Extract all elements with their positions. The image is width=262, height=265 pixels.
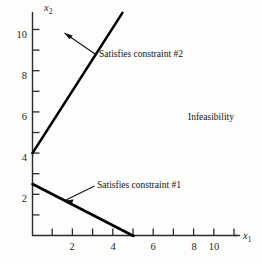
y-tick-label-6: 6 xyxy=(10,111,27,122)
annotation-infeasibility: Infeasibility xyxy=(188,112,234,122)
y-axis-title: x2 xyxy=(44,2,52,16)
y-tick-label-10: 10 xyxy=(5,29,27,40)
plot-area xyxy=(0,0,262,265)
x-tick-label-8: 8 xyxy=(184,241,204,252)
annotation-constraint-2: Satisfies constraint #2 xyxy=(99,49,183,59)
constraint-2-line xyxy=(33,13,123,153)
x-tick-label-4: 4 xyxy=(103,241,123,252)
x-axis-title-sub: 1 xyxy=(248,235,252,244)
x-tick-label-2: 2 xyxy=(62,241,82,252)
constraint-plot-figure: 2 4 6 8 10 2 4 6 8 10 x2 x1 Satisfies co… xyxy=(0,0,262,265)
y-tick-label-4: 4 xyxy=(10,152,27,163)
y-tick-label-2: 2 xyxy=(10,193,27,204)
x-axis-ticks xyxy=(52,229,234,236)
y-axis-title-sub: 2 xyxy=(49,7,53,16)
y-tick-label-8: 8 xyxy=(10,70,27,81)
constraint-1-arrow xyxy=(65,186,95,204)
x-tick-label-10: 10 xyxy=(204,241,224,252)
constraint-2-arrow xyxy=(65,33,97,55)
x-axis-title: x1 xyxy=(243,230,251,244)
annotation-constraint-1: Satisfies constraint #1 xyxy=(97,180,181,190)
x-tick-label-6: 6 xyxy=(143,241,163,252)
